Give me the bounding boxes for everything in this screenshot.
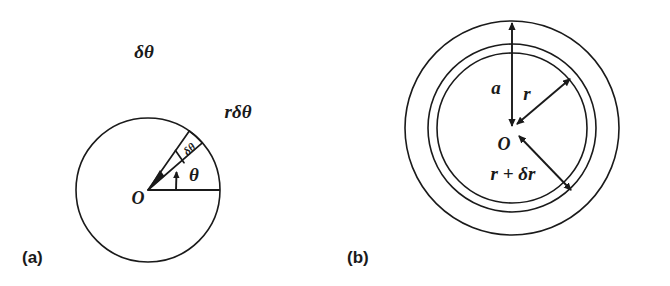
label-origin-a: O	[132, 188, 145, 208]
panel-label-b: (b)	[347, 248, 369, 267]
panel-label-a: (a)	[22, 248, 43, 267]
wedge-outer-arc	[189, 131, 202, 143]
panel-a-diagram: δθ rδθ δθ θ O (a)	[0, 0, 335, 286]
wedge-origin-arrowhead	[148, 170, 165, 190]
label-radius-a: a	[491, 77, 501, 98]
label-theta: θ	[189, 164, 199, 185]
panel-b-diagram: a r O r + δr (b)	[335, 0, 670, 286]
label-delta-theta-floating: δθ	[134, 41, 154, 62]
theta-arrow	[176, 172, 177, 190]
label-origin-b: O	[498, 134, 511, 154]
label-radius-r: r	[523, 83, 531, 104]
figure-root: δθ rδθ δθ θ O (a)	[0, 0, 670, 286]
label-wedge-delta-theta: δθ	[181, 141, 198, 158]
wedge-inner-chord	[176, 150, 185, 162]
label-arc-length: rδθ	[225, 101, 252, 122]
label-radius-r-plus-delta-r: r + δr	[491, 163, 536, 184]
